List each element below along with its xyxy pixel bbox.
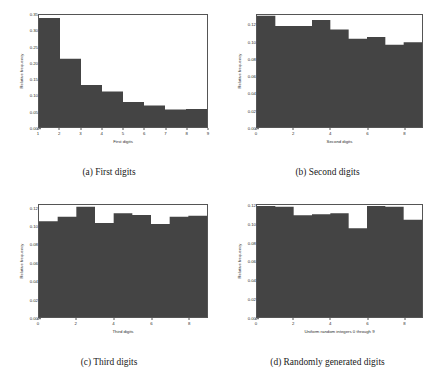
y-tick-d-1: 0.02 — [248, 297, 256, 302]
x-tick-a-0: 1 — [37, 131, 39, 136]
panel-b-second-digits: Relative frequency 0.000.020.040.060.080… — [218, 0, 437, 190]
axes-b — [256, 14, 423, 128]
axes-a — [38, 14, 208, 128]
y-tick-a-4: 0.20 — [30, 60, 38, 65]
x-tick-a-8: 9 — [207, 131, 209, 136]
caption-a: (a) First digits — [0, 167, 218, 177]
x-tick-b-2: 4 — [329, 131, 331, 136]
x-tick-a-3: 4 — [101, 131, 103, 136]
bar-series-b — [257, 16, 422, 127]
y-tick-labels-d: 0.000.020.040.060.080.100.12 — [230, 204, 256, 318]
y-tick-d-6: 0.12 — [248, 202, 256, 207]
x-tick-d-0: 0 — [255, 321, 257, 326]
y-tick-labels-c: 0.000.020.040.060.080.100.12 — [12, 204, 38, 318]
x-tick-d-4: 8 — [403, 321, 405, 326]
caption-b: (b) Second digits — [218, 167, 437, 177]
y-tick-d-4: 0.08 — [248, 240, 256, 245]
x-tick-a-2: 3 — [79, 131, 81, 136]
x-tick-b-0: 0 — [255, 131, 257, 136]
y-tick-c-4: 0.08 — [30, 242, 38, 247]
x-tick-a-6: 7 — [164, 131, 166, 136]
axes-c — [38, 204, 208, 318]
y-tick-a-7: 0.35 — [30, 12, 38, 17]
axes-d — [256, 204, 423, 318]
y-tick-c-1: 0.02 — [30, 297, 38, 302]
x-tick-d-2: 4 — [329, 321, 331, 326]
y-tick-labels-a: 0.000.050.100.150.200.250.300.35 — [12, 14, 38, 128]
y-tick-d-5: 0.10 — [248, 221, 256, 226]
x-tick-a-7: 8 — [186, 131, 188, 136]
y-tick-d-2: 0.04 — [248, 278, 256, 283]
y-tick-a-1: 0.05 — [30, 109, 38, 114]
x-axis-label-c: Third digits — [38, 329, 208, 334]
plot-area-d: Relative frequency 0.000.020.040.060.080… — [218, 190, 437, 350]
y-tick-c-5: 0.10 — [30, 224, 38, 229]
y-tick-b-3: 0.06 — [248, 74, 256, 79]
histogram-bars-b — [257, 15, 422, 127]
x-tick-b-4: 8 — [403, 131, 405, 136]
x-tick-c-4: 8 — [188, 321, 190, 326]
bar-series-d — [257, 206, 422, 317]
y-tick-b-6: 0.12 — [248, 22, 256, 27]
histogram-bars-d — [257, 205, 422, 317]
plot-area-a: Relative frequency 0.000.050.100.150.200… — [0, 0, 218, 160]
panel-c-third-digits: Relative frequency 0.000.020.040.060.080… — [0, 190, 218, 381]
y-tick-c-6: 0.12 — [30, 205, 38, 210]
y-tick-a-2: 0.10 — [30, 93, 38, 98]
x-axis-label-b: Second digits — [256, 139, 423, 144]
x-tick-c-0: 0 — [37, 321, 39, 326]
x-tick-b-3: 6 — [366, 131, 368, 136]
caption-c: (c) Third digits — [0, 357, 218, 367]
y-tick-a-3: 0.15 — [30, 77, 38, 82]
y-tick-a-6: 0.30 — [30, 28, 38, 33]
panel-d-random-digits: Relative frequency 0.000.020.040.060.080… — [218, 190, 437, 381]
x-tick-b-1: 2 — [292, 131, 294, 136]
histogram-bars-c — [39, 205, 207, 317]
y-tick-b-5: 0.10 — [248, 39, 256, 44]
y-tick-b-4: 0.08 — [248, 56, 256, 61]
x-axis-label-d: Uniform random integers 0 through 9 — [256, 329, 423, 334]
plot-area-c: Relative frequency 0.000.020.040.060.080… — [0, 190, 218, 350]
y-tick-b-2: 0.04 — [248, 91, 256, 96]
x-tick-a-4: 5 — [122, 131, 124, 136]
y-tick-c-2: 0.04 — [30, 279, 38, 284]
y-tick-d-3: 0.06 — [248, 259, 256, 264]
x-tick-a-5: 6 — [143, 131, 145, 136]
x-tick-d-1: 2 — [292, 321, 294, 326]
x-tick-d-3: 6 — [366, 321, 368, 326]
y-tick-c-3: 0.06 — [30, 260, 38, 265]
x-tick-c-3: 6 — [150, 321, 152, 326]
y-tick-a-5: 0.25 — [30, 44, 38, 49]
figure-four-panel-histograms: Relative frequency 0.000.050.100.150.200… — [0, 0, 437, 381]
plot-area-b: Relative frequency 0.000.020.040.060.080… — [218, 0, 437, 160]
y-tick-b-1: 0.02 — [248, 108, 256, 113]
x-tick-c-2: 4 — [112, 321, 114, 326]
x-tick-c-1: 2 — [75, 321, 77, 326]
bar-series-a — [39, 18, 207, 127]
bar-series-c — [39, 207, 207, 317]
x-axis-label-a: First digits — [38, 139, 208, 144]
x-tick-a-1: 2 — [58, 131, 60, 136]
histogram-bars-a — [39, 15, 207, 127]
y-tick-labels-b: 0.000.020.040.060.080.100.12 — [230, 14, 256, 128]
panel-a-first-digits: Relative frequency 0.000.050.100.150.200… — [0, 0, 218, 190]
caption-d: (d) Randomly generated digits — [218, 357, 437, 367]
